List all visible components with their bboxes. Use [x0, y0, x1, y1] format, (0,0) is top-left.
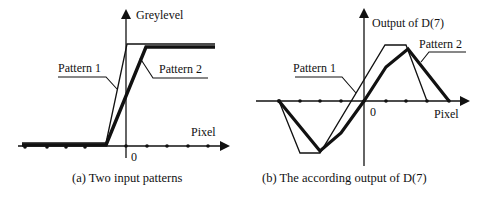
pattern-1-label: Pattern 1 — [58, 62, 101, 74]
pattern-1-leader — [295, 77, 356, 93]
y-axis-label: Greylevel — [136, 9, 183, 21]
origin-label: 0 — [131, 151, 137, 163]
x-axis-label: Pixel — [434, 108, 459, 120]
caption: (a) Two input patterns — [72, 172, 182, 185]
pattern-2-leader — [421, 52, 466, 62]
caption: (b) The according output of D(7) — [262, 172, 427, 185]
panel-b — [256, 10, 468, 166]
pattern-1-label: Pattern 1 — [293, 62, 336, 74]
pattern-2-label: Pattern 2 — [419, 38, 462, 50]
x-axis-label: Pixel — [191, 126, 216, 138]
figure: Greylevel Pixel 0 Pattern 1 Pattern 2 (a… — [0, 0, 479, 198]
pattern-1-leader — [58, 77, 117, 89]
origin-label: 0 — [370, 106, 376, 118]
y-axis-label: Output of D(7) — [372, 17, 444, 29]
pattern-2-label: Pattern 2 — [159, 63, 202, 75]
pattern-1-curve — [22, 44, 215, 143]
